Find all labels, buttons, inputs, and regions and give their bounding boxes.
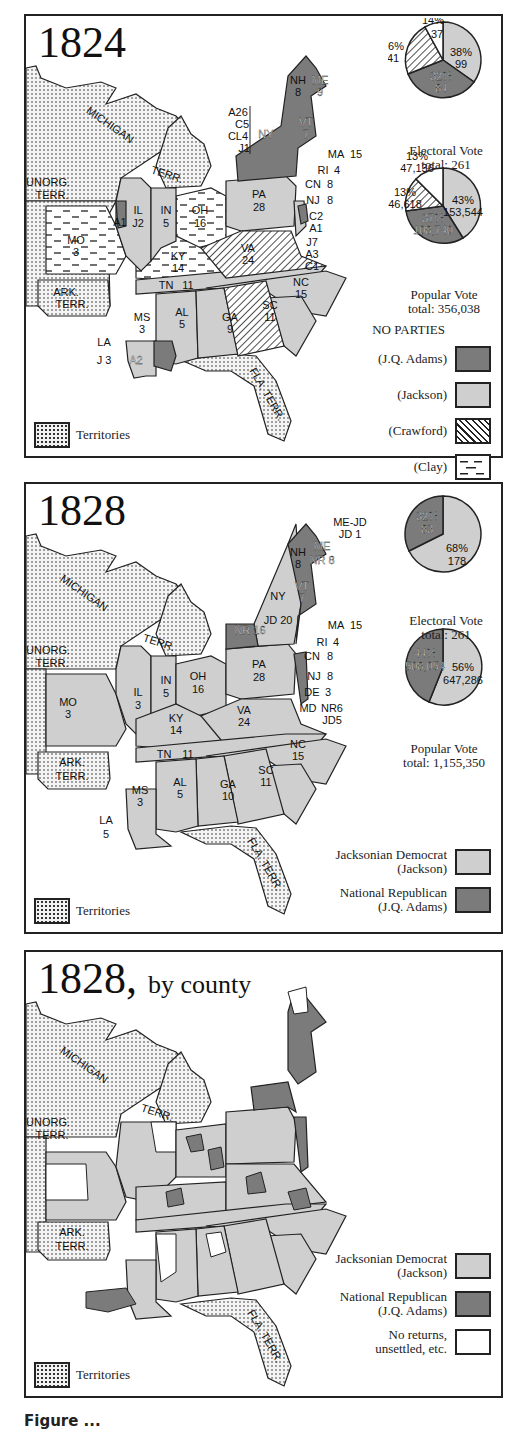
svg-text:TN: TN: [159, 279, 174, 291]
svg-text:A1: A1: [309, 222, 322, 234]
svg-text:3: 3: [135, 699, 141, 711]
svg-text:8: 8: [327, 670, 333, 682]
legend-1824: NO PARTIES (J.Q. Adams) (Jackson) (Crawf…: [372, 322, 491, 490]
svg-text:GA: GA: [220, 778, 237, 790]
electoral-vote-caption: Electoral Votetotal: 261: [396, 614, 496, 642]
svg-text:13%: 13%: [394, 186, 416, 198]
svg-text:MS: MS: [134, 311, 151, 323]
svg-text:SC: SC: [262, 299, 277, 311]
svg-text:24: 24: [238, 716, 250, 728]
svg-text:TERR.: TERR.: [36, 189, 69, 201]
svg-text:15: 15: [295, 288, 307, 300]
svg-text:5: 5: [163, 687, 169, 699]
svg-text:16: 16: [194, 217, 206, 229]
map-panel-1828: 1828 MICHIGAN TERR. UNORG.TERR. ARK.TERR…: [24, 482, 503, 934]
svg-text:MO: MO: [59, 696, 77, 708]
swatch-dark: [455, 887, 491, 913]
svg-text:178: 178: [448, 555, 466, 567]
svg-text:J 3: J 3: [97, 354, 112, 366]
svg-text:UNORG.: UNORG.: [26, 644, 70, 656]
svg-text:UNORG.: UNORG.: [26, 176, 70, 188]
svg-text:NR 16: NR 16: [234, 624, 265, 636]
svg-text:C2: C2: [309, 210, 323, 222]
svg-text:MA: MA: [328, 619, 345, 631]
swatch-dashed: [455, 454, 491, 480]
svg-text:NJ: NJ: [306, 194, 319, 206]
swatch-white: [455, 1329, 491, 1355]
svg-text:5: 5: [177, 788, 183, 800]
svg-text:7: 7: [303, 128, 309, 140]
svg-text:LA: LA: [97, 336, 111, 348]
svg-text:SC: SC: [258, 764, 273, 776]
svg-text:J7: J7: [306, 236, 318, 248]
svg-text:VA: VA: [241, 242, 256, 254]
territories-key: Territories: [34, 898, 130, 924]
legend-item-clay: (Clay): [372, 454, 491, 480]
svg-text:IN: IN: [161, 674, 172, 686]
legend-item-adams: (J.Q. Adams): [372, 346, 491, 372]
legend-title: NO PARTIES: [372, 322, 445, 338]
svg-text:647,286: 647,286: [443, 674, 483, 686]
svg-text:JD 1: JD 1: [339, 528, 362, 540]
svg-text:ME-JD: ME-JD: [333, 516, 367, 528]
svg-text:108,740: 108,740: [413, 224, 453, 236]
svg-text:83: 83: [421, 523, 433, 535]
svg-text:37: 37: [431, 28, 443, 40]
svg-text:14%: 14%: [422, 18, 444, 26]
swatch-dotted: [34, 898, 70, 924]
legend-item-jacksonian-democrat: Jacksonian Democrat(Jackson): [335, 848, 491, 876]
svg-text:28: 28: [253, 201, 265, 213]
electoral-vote-caption: Electoral Votetotal: 261: [396, 144, 496, 172]
legend-item-national-republican: National Republican(J.Q. Adams): [335, 1290, 491, 1318]
svg-text:CN: CN: [304, 650, 320, 662]
svg-text:NR 8: NR 8: [309, 554, 334, 566]
svg-text:TERR.: TERR.: [56, 1240, 89, 1252]
svg-text:MA: MA: [328, 148, 345, 160]
svg-text:A3: A3: [305, 248, 318, 260]
svg-text:16%: 16%: [388, 40, 404, 52]
svg-text:7: 7: [299, 592, 305, 604]
svg-text:RI: RI: [317, 636, 328, 648]
svg-text:9: 9: [317, 86, 323, 98]
svg-text:37%: 37%: [422, 212, 444, 224]
svg-text:TERR.: TERR.: [36, 1129, 69, 1141]
svg-text:99: 99: [455, 58, 467, 70]
svg-text:9: 9: [227, 323, 233, 335]
legend-item-jackson: (Jackson): [372, 382, 491, 408]
svg-text:TERR.: TERR.: [56, 298, 89, 310]
svg-text:4: 4: [333, 636, 339, 648]
swatch-light: [455, 1253, 491, 1279]
svg-text:UNORG.: UNORG.: [26, 1116, 70, 1128]
svg-text:NH: NH: [290, 74, 306, 86]
svg-text:68%: 68%: [446, 542, 468, 554]
svg-text:38%: 38%: [450, 46, 472, 58]
figure-caption-truncated: Figure ...: [24, 1412, 101, 1430]
svg-text:NC: NC: [293, 276, 309, 288]
svg-text:JD5: JD5: [322, 714, 342, 726]
svg-text:C1: C1: [305, 260, 319, 272]
svg-text:JD 20: JD 20: [264, 614, 293, 626]
svg-text:11: 11: [182, 279, 193, 291]
svg-text:153,544: 153,544: [443, 206, 483, 218]
svg-text:5: 5: [103, 828, 109, 840]
svg-text:28: 28: [253, 671, 265, 683]
svg-text:GA: GA: [222, 311, 239, 323]
svg-text:508,054: 508,054: [405, 660, 445, 672]
svg-text:15: 15: [292, 750, 304, 762]
svg-text:41: 41: [388, 52, 399, 64]
svg-text:ARK.: ARK.: [59, 756, 85, 768]
svg-text:PA: PA: [252, 188, 267, 200]
svg-text:VT: VT: [299, 116, 313, 128]
svg-text:LA: LA: [99, 814, 113, 826]
svg-text:DE: DE: [304, 686, 319, 698]
svg-text:14: 14: [170, 724, 182, 736]
legend-item-national-republican: National Republican(J.Q. Adams): [335, 886, 491, 914]
swatch-dark: [455, 1291, 491, 1317]
svg-text:24: 24: [242, 254, 254, 266]
svg-text:J1: J1: [238, 142, 250, 154]
svg-text:5: 5: [179, 318, 185, 330]
svg-text:PA: PA: [252, 658, 267, 670]
legend-1828-county: Jacksonian Democrat(Jackson) National Re…: [335, 1252, 491, 1366]
popular-vote-caption: Popular Votetotal: 1,155,350: [388, 742, 500, 770]
svg-text:ARK.: ARK.: [59, 1226, 85, 1238]
